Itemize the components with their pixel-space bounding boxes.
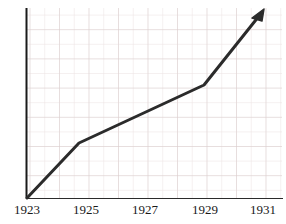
line-chart: 1923 1925 1927 1929 1931: [0, 0, 286, 224]
x-tick-label-1927: 1927: [132, 202, 158, 217]
chart-canvas: [0, 0, 286, 224]
x-tick-label-1929: 1929: [192, 202, 218, 217]
x-tick-label-1923: 1923: [14, 202, 40, 217]
x-tick-label-1925: 1925: [73, 202, 99, 217]
x-tick-label-1931: 1931: [250, 202, 276, 217]
